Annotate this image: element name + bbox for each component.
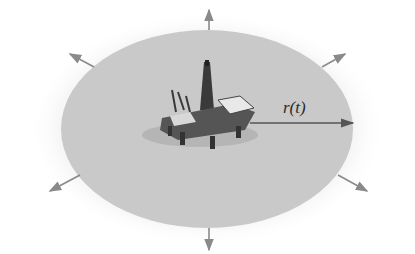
radius-label: r(t)	[283, 98, 306, 118]
oil-slick-diagram	[0, 0, 415, 254]
